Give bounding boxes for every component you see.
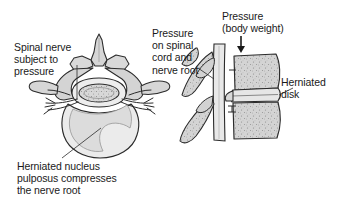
vertebral-body-lower xyxy=(233,102,280,139)
transverse-process-left xyxy=(29,81,58,94)
transverse-process-right xyxy=(141,81,170,94)
herniated-disk-figure: Spinal nerve subject to pressure Pressur… xyxy=(0,0,340,204)
label-pressure-on-spinal-cord: Pressure on spinal cord and nerve root xyxy=(152,27,198,76)
label-spinal-nerve: Spinal nerve subject to pressure xyxy=(14,41,71,78)
label-herniated-nucleus-pulposus: Herniated nucleus pulposus compresses th… xyxy=(17,160,117,197)
spinal-cord xyxy=(79,84,119,102)
vertebral-body-upper xyxy=(234,54,280,90)
label-pressure-body-weight: Pressure (body weight) xyxy=(222,10,284,34)
disk-bulge xyxy=(225,91,233,101)
pressure-arrow xyxy=(237,36,245,53)
label-herniated-disk: Herniated disk xyxy=(281,76,326,100)
